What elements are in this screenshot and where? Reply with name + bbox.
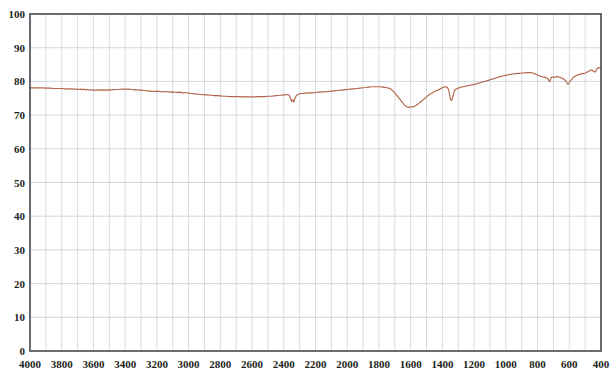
x-tick-label: 1000 <box>495 358 518 370</box>
y-tick-label: 10 <box>14 311 26 323</box>
x-tick-label: 1200 <box>463 358 486 370</box>
y-tick-label: 20 <box>14 278 26 290</box>
chart-background <box>0 0 612 381</box>
x-tick-label: 2600 <box>241 358 264 370</box>
x-tick-label: 1400 <box>431 358 454 370</box>
y-tick-label: 40 <box>14 210 26 222</box>
x-tick-label: 3600 <box>82 358 105 370</box>
y-tick-label: 70 <box>14 109 26 121</box>
x-tick-label: 4000 <box>19 358 42 370</box>
x-tick-label: 2200 <box>305 358 328 370</box>
y-tick-label: 90 <box>14 42 26 54</box>
x-tick-label: 2400 <box>273 358 296 370</box>
x-tick-label: 800 <box>529 358 546 370</box>
x-tick-label: 3800 <box>51 358 74 370</box>
x-tick-label: 2800 <box>209 358 232 370</box>
y-tick-label: 100 <box>9 8 26 20</box>
x-tick-label: 3400 <box>114 358 137 370</box>
x-tick-label: 3200 <box>146 358 169 370</box>
x-tick-label: 3000 <box>178 358 201 370</box>
y-tick-label: 60 <box>14 143 26 155</box>
y-tick-label: 80 <box>14 75 26 87</box>
x-tick-label: 1800 <box>368 358 391 370</box>
y-tick-label: 30 <box>14 244 26 256</box>
y-tick-label: 0 <box>20 345 26 357</box>
spectrum-plot: 0102030405060708090100 40003800360034003… <box>0 0 612 381</box>
x-tick-label: 600 <box>561 358 578 370</box>
ftir-spectrum-chart: 0102030405060708090100 40003800360034003… <box>0 0 612 381</box>
x-tick-label: 400 <box>593 358 610 370</box>
x-tick-label: 1600 <box>400 358 423 370</box>
x-tick-label: 2000 <box>336 358 359 370</box>
y-tick-label: 50 <box>14 177 26 189</box>
